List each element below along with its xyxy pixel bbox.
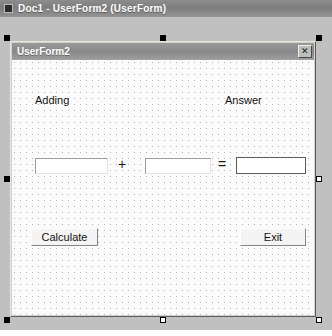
selection-handle-bottom-left[interactable] <box>4 317 10 323</box>
selection-handle-top-center[interactable] <box>160 35 166 41</box>
selection-handle-top-right[interactable] <box>316 35 322 41</box>
userform-titlebar[interactable]: UserForm2 ✕ <box>12 43 314 60</box>
screenshot-root: Doc1 - UserForm2 (UserForm) UserForm2 ✕ <box>0 0 332 336</box>
textbox-result[interactable] <box>236 157 306 174</box>
calculate-button[interactable]: Calculate <box>31 228 98 246</box>
operator-equals: = <box>218 156 226 172</box>
label-adding[interactable]: Adding <box>35 94 69 106</box>
userform-window[interactable]: UserForm2 ✕ Adding Answer + = Calculate … <box>10 41 316 317</box>
exit-button[interactable]: Exit <box>240 228 306 246</box>
selection-handle-middle-left[interactable] <box>4 176 10 182</box>
textbox-operand-2[interactable] <box>145 158 211 174</box>
designer-workspace: UserForm2 ✕ Adding Answer + = Calculate … <box>0 17 332 330</box>
textbox-operand-1[interactable] <box>35 158 108 174</box>
selection-handle-bottom-right[interactable] <box>316 317 322 323</box>
mdi-window-title: Doc1 - UserForm2 (UserForm) <box>18 3 166 14</box>
form-system-icon[interactable] <box>4 4 13 13</box>
close-icon[interactable]: ✕ <box>298 45 312 58</box>
mdi-child-window: Doc1 - UserForm2 (UserForm) UserForm2 ✕ <box>0 0 332 330</box>
userform-title: UserForm2 <box>17 46 298 57</box>
label-answer[interactable]: Answer <box>225 94 262 106</box>
mdi-titlebar[interactable]: Doc1 - UserForm2 (UserForm) <box>0 0 332 17</box>
userform-design-surface[interactable]: Adding Answer + = Calculate Exit <box>12 60 314 315</box>
operator-plus: + <box>118 156 126 172</box>
selection-handle-middle-right[interactable] <box>316 176 322 182</box>
selection-handle-bottom-center[interactable] <box>160 317 166 323</box>
window-bottom-edge <box>0 330 332 336</box>
selection-handle-top-left[interactable] <box>4 35 10 41</box>
